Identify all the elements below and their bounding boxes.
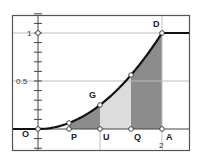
point-marker-P — [67, 127, 72, 132]
point-marker-Q — [129, 127, 134, 132]
point-label-A: A — [166, 132, 173, 142]
point-marker-A — [160, 127, 165, 132]
cdf-plot: 1 0.5 2 O P U Q A G D — [0, 0, 199, 161]
point-label-O: O — [22, 129, 29, 139]
point-label-G: G — [89, 90, 96, 100]
point-label-D: D — [153, 19, 160, 29]
point-label-P: P — [71, 132, 77, 142]
y-tick-label-1: 1 — [27, 29, 32, 38]
curve-marker — [129, 73, 134, 78]
point-marker-O — [36, 127, 41, 132]
curve-marker — [67, 121, 72, 126]
point-label-Q: Q — [134, 132, 141, 142]
x-tick-label-2: 2 — [159, 141, 164, 150]
curve-marker — [160, 31, 165, 36]
point-marker-y1 — [36, 31, 41, 36]
curve-marker — [98, 103, 103, 108]
y-tick-label-0.5: 0.5 — [16, 77, 28, 86]
point-label-U: U — [103, 132, 110, 142]
point-marker-U — [98, 127, 103, 132]
